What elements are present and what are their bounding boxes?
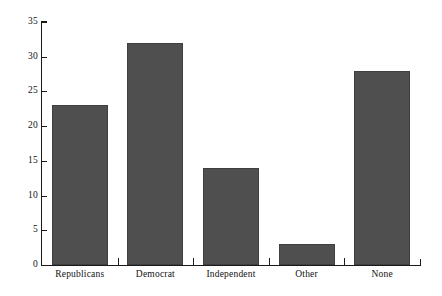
x-axis-tick-label: Democrat <box>118 270 194 280</box>
y-axis-tick <box>41 230 47 231</box>
bar <box>203 168 259 265</box>
x-axis-tick <box>269 258 270 265</box>
y-axis-tick <box>41 91 47 92</box>
bar <box>127 43 183 265</box>
bar-chart: 05101520253035 RepublicansDemocratIndepe… <box>0 0 442 296</box>
y-axis-tick-label: 25 <box>12 86 38 96</box>
x-axis-tick <box>118 258 119 265</box>
y-axis-tick-label: 30 <box>12 52 38 62</box>
y-axis-tick-label: 35 <box>12 17 38 27</box>
x-axis-tick <box>193 258 194 265</box>
x-axis-tick-label: None <box>344 270 420 280</box>
y-axis-tick-label: 10 <box>12 191 38 201</box>
bar <box>354 71 410 265</box>
y-axis-line <box>41 21 42 266</box>
x-axis-tick-label: Independent <box>193 270 269 280</box>
y-axis-tick-label: 20 <box>12 121 38 131</box>
y-axis-tick-label: 0 <box>12 260 38 270</box>
y-axis-tick-label: 5 <box>12 225 38 235</box>
x-axis-line <box>41 265 421 266</box>
y-axis-tick <box>41 196 47 197</box>
x-axis-right-cap <box>420 259 421 266</box>
bar <box>279 244 335 265</box>
x-axis-tick-label: Republicans <box>42 270 118 280</box>
y-axis-tick-label: 15 <box>12 156 38 166</box>
x-axis-tick-label: Other <box>269 270 345 280</box>
bar <box>52 105 108 265</box>
y-axis-tick <box>41 161 47 162</box>
y-axis-tick <box>41 22 47 23</box>
y-axis-tick <box>41 57 47 58</box>
x-axis-tick <box>344 258 345 265</box>
y-axis-tick <box>41 126 47 127</box>
